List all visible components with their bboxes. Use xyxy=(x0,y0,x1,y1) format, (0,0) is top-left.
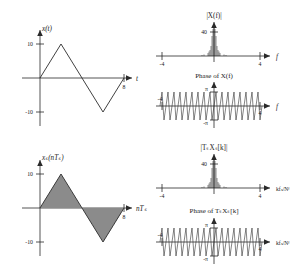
x-axis-arrow xyxy=(126,205,132,211)
x-axis-arrow xyxy=(126,75,132,81)
y-axis-label: x(t) xyxy=(41,25,53,33)
y-tick-negative: -10 xyxy=(25,239,33,245)
x-axis-arrow xyxy=(264,53,270,59)
y-tick-40: 40 xyxy=(201,29,207,35)
y-tick-pi: π xyxy=(205,222,208,228)
sampled-positive-lobe xyxy=(40,174,82,208)
x-tick-8: 8 xyxy=(123,84,126,90)
y-tick-40: 40 xyxy=(201,161,207,167)
x-tick-max: 4 xyxy=(259,61,262,67)
x-axis-label: kfₛ/Nᶠ xyxy=(276,240,290,246)
panel-title: |TₛXₛ[k]| xyxy=(201,144,228,152)
y-axis-arrow xyxy=(211,218,217,224)
panel-title: |X(f)| xyxy=(206,12,221,20)
y-tick-positive: 10 xyxy=(27,41,33,47)
panel-title: Phase of TₛXₛ[k] xyxy=(189,207,238,215)
y-tick-neg-pi: -π xyxy=(203,256,208,262)
x-axis-arrow xyxy=(264,103,270,109)
y-tick-negative: -10 xyxy=(25,109,33,115)
x-tick-min: -4 xyxy=(158,96,163,102)
y-tick-neg-pi: -π xyxy=(203,120,208,126)
panel-dft-phase: Phase of TₛXₛ[k] π -π kfₛ/Nᶠ -4 4 xyxy=(152,204,292,270)
y-tick-positive: 10 xyxy=(27,171,33,177)
y-tick-pi: π xyxy=(205,86,208,92)
panel-sampled-signal: xₛ(nTₛ) nTₛ 10 -10 8 xyxy=(14,150,146,266)
sampled-negative-lobe xyxy=(82,208,124,242)
panel-continuous-time-signal: x(t) t 10 -10 8 xyxy=(14,22,146,134)
panel-title: Phase of X(f) xyxy=(195,72,233,80)
x-axis-label: nTₛ xyxy=(136,205,147,213)
x-tick-min: -4 xyxy=(158,232,163,238)
x-axis-label: f xyxy=(276,53,279,61)
x-tick-max: 4 xyxy=(259,246,262,252)
x-axis-label: t xyxy=(136,75,139,83)
x-tick-min: -4 xyxy=(160,193,165,199)
signal-processing-figure: x(t) t 10 -10 8 xyxy=(0,0,294,278)
x-tick-min: -4 xyxy=(160,61,165,67)
x-tick-max: 4 xyxy=(259,193,262,199)
y-axis-arrow xyxy=(211,82,217,88)
panel-dft-magnitude: |TₛXₛ[k]| 40 kfₛ/Nᶠ -4 4 xyxy=(152,140,292,198)
x-axis-label: kfₛ/Nᶠ xyxy=(276,186,290,192)
x-tick-8: 8 xyxy=(123,214,126,220)
y-axis-label: xₛ(nTₛ) xyxy=(41,154,64,162)
x-axis-arrow xyxy=(264,239,270,245)
x-tick-max: 4 xyxy=(259,110,262,116)
panel-continuous-fourier-magnitude: |X(f)| 40 f -4 4 xyxy=(152,8,292,66)
x-axis-arrow xyxy=(264,185,270,191)
x-axis-label: f xyxy=(276,103,279,111)
panel-continuous-fourier-phase: Phase of X(f) π -π f -4 4 xyxy=(152,70,292,132)
